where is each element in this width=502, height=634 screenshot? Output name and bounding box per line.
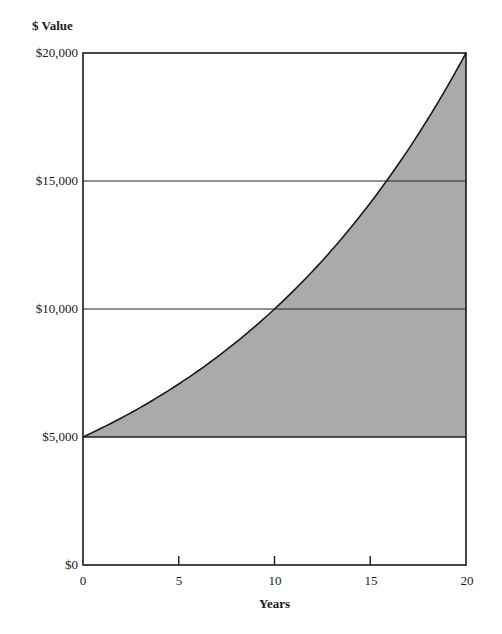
y-tick-label: $5,000 — [42, 429, 78, 445]
x-tick-label: 5 — [164, 573, 194, 589]
y-axis-title: $ Value — [32, 18, 73, 34]
x-tick-label: 10 — [260, 573, 290, 589]
shaded-growth-area — [83, 53, 466, 437]
chart-area — [0, 0, 502, 634]
x-tick-label: 20 — [452, 573, 482, 589]
x-tick-label: 15 — [356, 573, 386, 589]
y-tick-label: $20,000 — [36, 45, 78, 61]
x-tick-label: 0 — [68, 573, 98, 589]
y-tick-label: $15,000 — [36, 173, 78, 189]
y-tick-label: $0 — [65, 557, 78, 573]
plot-area — [83, 53, 466, 565]
y-tick-label: $10,000 — [36, 301, 78, 317]
x-axis-title: Years — [259, 596, 290, 612]
